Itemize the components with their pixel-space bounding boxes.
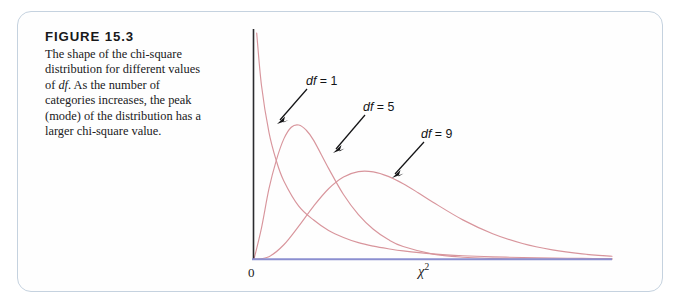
curve-label-df1: df = 1 — [306, 74, 337, 88]
caption-line: The shape of the chi-square — [45, 47, 182, 61]
curve-df-9 — [254, 171, 612, 259]
df-symbol: df — [363, 100, 373, 114]
chi-symbol: χ — [418, 263, 424, 279]
annotation-arrows — [277, 89, 424, 178]
caption-line: chi-square value. — [77, 124, 162, 138]
df-symbol: df — [421, 127, 431, 141]
distribution-curves — [254, 33, 612, 259]
curve-df-5 — [254, 125, 612, 259]
caption-block: FIGURE 15.3 The shape of the chi-square … — [45, 29, 203, 139]
df-italic: df — [58, 78, 68, 92]
origin-tick-label: 0 — [248, 265, 255, 281]
figure-frame: FIGURE 15.3 The shape of the chi-square … — [17, 11, 663, 292]
curve-label-df9: df = 9 — [421, 127, 452, 141]
figure-caption: The shape of the chi-square distribution… — [45, 47, 203, 139]
df-value: = 5 — [373, 100, 394, 114]
df-value: = 9 — [431, 127, 452, 141]
curve-df-1 — [257, 33, 612, 259]
arrow-df1 — [277, 89, 307, 124]
x-axis-label: χ2 — [418, 262, 429, 280]
df-symbol: df — [306, 74, 316, 88]
df-value: = 1 — [316, 74, 337, 88]
arrow-df9 — [392, 142, 424, 178]
curve-label-df5: df = 5 — [363, 100, 394, 114]
figure-number-label: FIGURE 15.3 — [45, 29, 203, 44]
chi-exponent: 2 — [424, 262, 429, 272]
arrow-df5 — [333, 115, 365, 153]
caption-line: distribution for different — [45, 62, 165, 76]
